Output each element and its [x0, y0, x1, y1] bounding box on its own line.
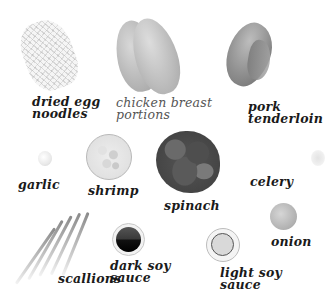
spinach-label: spinach	[164, 200, 220, 212]
celery-label: celery	[250, 176, 293, 188]
onion-label: onion	[271, 236, 312, 248]
ingredients-illustration: dried egg noodles chicken breast portion…	[0, 0, 336, 293]
spinach-image	[156, 131, 220, 193]
noodles-label: dried egg noodles	[32, 96, 100, 120]
celery-image	[311, 150, 325, 166]
noodles-image	[14, 14, 85, 97]
chicken-label: chicken breast portions	[116, 97, 212, 121]
onion-image	[270, 203, 297, 230]
dark-soy-sauce-image	[116, 227, 141, 252]
light-soy-label: light soy sauce	[220, 267, 282, 291]
shrimp-label: shrimp	[88, 185, 139, 197]
garlic-label: garlic	[18, 179, 60, 191]
dark-soy-label: dark soy sauce	[110, 260, 171, 284]
garlic-image	[38, 151, 52, 166]
pork-label: pork tenderloin	[248, 101, 323, 125]
light-soy-sauce-image	[211, 233, 234, 256]
shrimp-bowl-image	[86, 134, 132, 180]
